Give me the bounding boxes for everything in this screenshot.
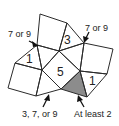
arrow-bottom-left xyxy=(43,94,50,107)
annotation-bottom-right: At least 2 xyxy=(74,109,112,119)
triangle-left-center xyxy=(37,45,59,70)
top-square xyxy=(37,14,67,51)
annotation-bottom-left: 3, 7, or 9 xyxy=(22,109,58,119)
label-1-left: 1 xyxy=(26,52,33,66)
annotation-top-left: 7 or 9 xyxy=(8,29,31,39)
tiling-diagram: 3 1 5 1 7 or 9 7 or 9 3, 7, or 9 At leas… xyxy=(0,0,119,126)
right-square xyxy=(80,43,113,74)
annotation-top-right: 7 or 9 xyxy=(85,23,108,33)
arrow-top-right xyxy=(83,32,89,43)
arrow-bottom-right xyxy=(77,95,84,107)
label-1-right: 1 xyxy=(89,74,96,88)
label-5: 5 xyxy=(57,65,64,79)
label-3: 3 xyxy=(64,33,71,47)
